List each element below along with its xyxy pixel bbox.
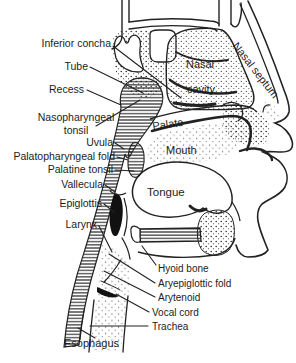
label-vocal-cord: Vocal cord: [152, 307, 199, 318]
label-tube: Tube: [64, 60, 88, 72]
anatomy-figure: Inferior concha Tube Recess Nasopharynge…: [0, 0, 296, 363]
hyoid-bone-shape: [140, 228, 201, 242]
label-recess: Recess: [49, 83, 84, 95]
label-epiglottis: Epiglottis: [59, 197, 102, 209]
label-aryepiglottic-fold: Aryepiglottic fold: [158, 278, 231, 289]
label-tongue: Tongue: [147, 186, 185, 198]
label-uvula: Uvula: [86, 136, 113, 148]
label-nasopharyngeal: Nasopharyngeal: [38, 111, 114, 123]
anatomy-diagram: Inferior concha Tube Recess Nasopharynge…: [0, 0, 296, 363]
palatine-tonsil-shape: [128, 143, 144, 178]
label-palatopharyngeal-fold: Palatopharyngeal fold: [13, 150, 115, 162]
label-vallecula: Vallecula: [61, 178, 103, 190]
label-mouth: Mouth: [166, 144, 197, 156]
label-trachea: Trachea: [152, 321, 189, 332]
label-larynx: Larynx: [65, 218, 97, 230]
label-cavity: cavity: [187, 83, 216, 95]
label-inferior-concha: Inferior concha: [42, 37, 112, 49]
label-nasal: Nasal: [186, 58, 214, 70]
label-esophagus: Esophagus: [64, 337, 120, 349]
label-tonsil: tonsil: [64, 124, 89, 136]
label-palatine-tonsil: Palatine tonsil: [48, 163, 113, 175]
label-arytenoid: Arytenoid: [158, 292, 200, 303]
label-hyoid-bone: Hyoid bone: [158, 263, 209, 274]
